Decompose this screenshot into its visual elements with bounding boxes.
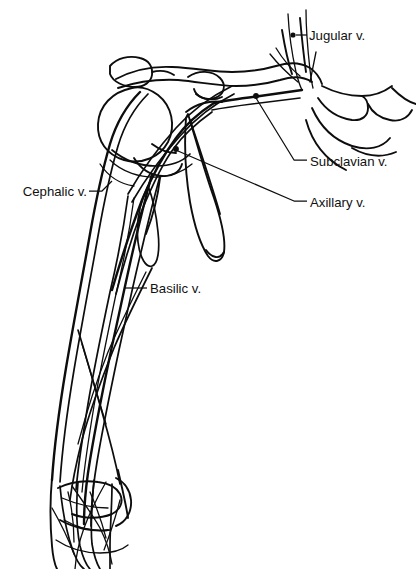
sternum-bone — [322, 86, 392, 96]
basilic-vein-lateral-wall — [91, 176, 160, 526]
axillary-label: Axillary v. — [310, 195, 365, 210]
label-basilic[interactable]: Basilic v. — [125, 281, 201, 296]
median-cubital-crossing-vein — [70, 268, 152, 500]
scapula-bone — [185, 114, 224, 261]
hand-thenar-contour — [116, 478, 131, 526]
anatomical-figure: Jugular v. Subclavian v. Axillary v. Cep… — [0, 0, 416, 569]
jugular-tributary-c — [310, 52, 316, 82]
basilic-label: Basilic v. — [150, 281, 201, 296]
external-jugular-vein — [306, 10, 313, 88]
rib-two — [312, 108, 390, 148]
jugular-label: Jugular v. — [309, 28, 365, 43]
jugular-marker-dot — [290, 32, 295, 37]
rib-one — [318, 96, 368, 120]
acromion-notch — [152, 71, 174, 75]
axillary-leader-line — [178, 151, 307, 201]
subclavian-leader-line — [256, 98, 307, 160]
manubrium-notch — [368, 104, 412, 121]
distal-forearm-radius — [51, 478, 58, 569]
deltoid-tributary — [100, 164, 134, 186]
label-annotations: Jugular v. Subclavian v. Axillary v. Cep… — [23, 28, 388, 296]
chest-wall-contour — [392, 88, 416, 104]
venous-anatomy-drawing: Jugular v. Subclavian v. Axillary v. Cep… — [0, 0, 416, 569]
accessory-cephalic-tributary — [82, 344, 106, 424]
subclavian-label: Subclavian v. — [310, 154, 387, 169]
cephalic-label: Cephalic v. — [23, 184, 87, 199]
